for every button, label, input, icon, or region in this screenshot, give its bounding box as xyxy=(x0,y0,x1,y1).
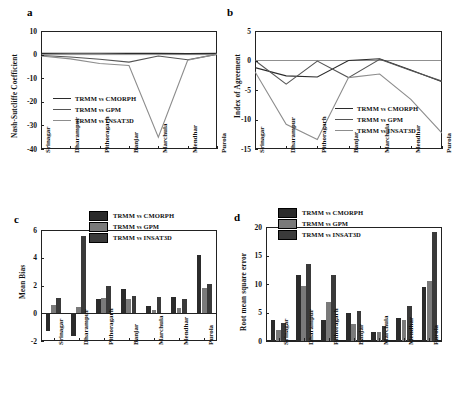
x-tick-mark xyxy=(129,338,130,341)
legend-item: TRMM vs CMORPH xyxy=(89,211,174,220)
y-tick-label: -20 xyxy=(17,97,37,106)
y-tick-label: 5 xyxy=(231,27,251,36)
bar xyxy=(326,302,331,341)
x-tick-mark xyxy=(286,146,287,149)
x-tick-label: Marchula xyxy=(157,316,165,345)
y-tick-label: 10 xyxy=(17,27,37,36)
x-tick-mark xyxy=(411,146,412,149)
legend-label: TRMM vs INSAT3D xyxy=(113,234,172,241)
x-tick-label: Banjar xyxy=(357,324,365,345)
y-tick-mark xyxy=(41,230,44,231)
legend-item: TRMM vs INSAT3D xyxy=(335,126,418,135)
legend-line-swatch xyxy=(335,119,353,120)
x-tick-label: Mendhar xyxy=(191,125,199,153)
bar xyxy=(371,332,376,341)
x-tick-label: Dharampur xyxy=(289,117,297,153)
x-tick-mark xyxy=(354,338,355,341)
y-tick-mark xyxy=(41,341,44,342)
x-tick-mark xyxy=(349,146,350,149)
y-tick-label: -30 xyxy=(17,121,37,130)
y-tick-mark xyxy=(255,31,258,32)
bar xyxy=(81,236,86,313)
x-tick-mark xyxy=(404,338,405,341)
legend-label: TRMM vs CMORPH xyxy=(75,95,136,102)
legend-color-swatch xyxy=(278,208,297,218)
y-tick-label: 6 xyxy=(17,226,37,235)
legend-label: TRMM vs CMORPH xyxy=(357,105,418,112)
bar xyxy=(152,310,157,313)
bar xyxy=(321,320,326,341)
legend-item: TRMM vs CMORPH xyxy=(53,94,136,103)
y-tick-mark xyxy=(255,90,258,91)
x-tick-mark xyxy=(54,338,55,341)
legend-label: TRMM vs GPM xyxy=(75,106,121,113)
legend-item: TRMM vs GPM xyxy=(89,222,174,231)
bar xyxy=(71,313,76,336)
x-tick-mark xyxy=(380,146,381,149)
y-tick-label: 20 xyxy=(242,223,262,232)
x-tick-mark xyxy=(129,146,130,149)
panel-c-letter: c xyxy=(14,213,19,225)
bar xyxy=(146,306,151,314)
bar xyxy=(171,297,176,314)
x-tick-label: Marchula xyxy=(161,124,169,153)
y-tick-label: 10 xyxy=(242,280,262,289)
legend-label: TRMM vs GPM xyxy=(113,223,159,230)
panel-d-letter: d xyxy=(234,211,240,223)
legend-item: TRMM vs CMORPH xyxy=(335,104,418,113)
y-tick-mark xyxy=(41,258,44,259)
legend-color-swatch xyxy=(89,211,108,221)
y-tick-label: -10 xyxy=(231,115,251,124)
legend-line-swatch xyxy=(53,120,71,121)
bar xyxy=(301,286,306,341)
legend-label: TRMM vs GPM xyxy=(302,220,348,227)
x-tick-label: Mendhar xyxy=(182,317,190,345)
bar xyxy=(427,281,432,341)
legend-item: TRMM vs CMORPH xyxy=(278,208,363,217)
y-tick-label: 4 xyxy=(17,253,37,262)
y-tick-label: -40 xyxy=(17,145,37,154)
x-tick-label: Purola xyxy=(207,325,215,345)
legend-label: TRMM vs INSAT3D xyxy=(302,231,361,238)
y-tick-mark xyxy=(255,120,258,121)
x-tick-mark xyxy=(41,146,42,149)
bar xyxy=(46,313,51,330)
x-tick-label: Pithoragarh xyxy=(107,308,115,345)
x-tick-mark xyxy=(255,146,256,149)
x-tick-mark xyxy=(429,338,430,341)
y-tick-label: 5 xyxy=(242,308,262,317)
y-tick-mark xyxy=(266,313,269,314)
bar xyxy=(197,255,202,313)
x-tick-label: Pithoragarh xyxy=(320,116,328,153)
bar xyxy=(202,288,207,313)
y-tick-mark xyxy=(266,227,269,228)
x-tick-mark xyxy=(79,338,80,341)
panel-d-ylabel: Root mean square error xyxy=(240,253,248,331)
x-tick-label: Banjar xyxy=(132,132,140,153)
panel-d-legend: TRMM vs CMORPHTRMM vs GPMTRMM vs INSAT3D xyxy=(278,208,363,241)
legend-label: TRMM vs INSAT3D xyxy=(75,117,134,124)
bar xyxy=(396,318,401,341)
bar xyxy=(101,298,106,313)
y-tick-label: 0 xyxy=(231,56,251,65)
x-tick-mark xyxy=(329,338,330,341)
panel-a-legend: TRMM vs CMORPHTRMM vs GPMTRMM vs INSAT3D xyxy=(53,94,136,127)
bar xyxy=(271,320,276,341)
x-tick-mark xyxy=(279,338,280,341)
legend-line-swatch xyxy=(335,130,353,131)
legend-label: TRMM vs INSAT3D xyxy=(357,127,416,134)
x-tick-mark xyxy=(179,338,180,341)
bar xyxy=(51,305,56,313)
x-tick-mark xyxy=(154,338,155,341)
bar xyxy=(157,297,162,313)
legend-item: TRMM vs INSAT3D xyxy=(89,233,174,242)
x-tick-mark xyxy=(442,146,443,149)
zero-baseline xyxy=(41,313,217,314)
x-tick-label: Purola xyxy=(445,133,453,153)
x-tick-label: Srinagar xyxy=(258,127,266,153)
bar xyxy=(207,284,212,313)
x-tick-mark xyxy=(217,146,218,149)
x-tick-mark xyxy=(204,338,205,341)
y-tick-label: -2 xyxy=(17,337,37,346)
